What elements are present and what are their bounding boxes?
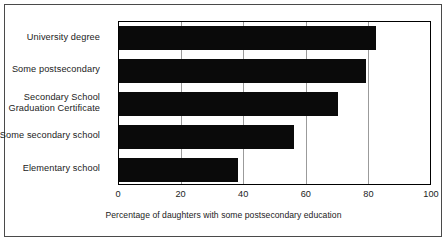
- x-tick-label-80: 80: [348, 189, 388, 199]
- x-tick-label-100: 100: [411, 189, 447, 199]
- x-tick-label-20: 20: [161, 189, 201, 199]
- bar-row: [119, 26, 432, 50]
- category-label: Some secondary school: [0, 130, 100, 142]
- bar: [119, 59, 366, 83]
- bar: [119, 125, 294, 149]
- bar-series: [119, 22, 430, 184]
- bar-row: [119, 92, 432, 116]
- bar-row: [119, 158, 432, 182]
- x-tick-label-40: 40: [223, 189, 263, 199]
- category-label: Elementary school: [0, 163, 100, 175]
- category-label-line: University degree: [0, 32, 100, 44]
- category-label-line: Some postsecondary: [0, 64, 100, 76]
- bar: [119, 92, 338, 116]
- bar: [119, 26, 376, 50]
- chart-figure: University degreeSome postsecondarySecon…: [0, 0, 447, 242]
- category-label: Secondary SchoolGraduation Certificate: [0, 92, 100, 115]
- x-tick-label-60: 60: [286, 189, 326, 199]
- bar-row: [119, 125, 432, 149]
- category-label-line: Some secondary school: [0, 130, 100, 142]
- x-tick-label-0: 0: [98, 189, 138, 199]
- category-label-line: Graduation Certificate: [0, 103, 100, 115]
- category-label-line: Elementary school: [0, 163, 100, 175]
- plot-area: [118, 21, 431, 185]
- x-axis-title: Percentage of daughters with some postse…: [0, 210, 447, 220]
- category-label: Some postsecondary: [0, 64, 100, 76]
- bar: [119, 158, 238, 182]
- category-label-line: Secondary School: [0, 92, 100, 104]
- bar-row: [119, 59, 432, 83]
- category-label: University degree: [0, 32, 100, 44]
